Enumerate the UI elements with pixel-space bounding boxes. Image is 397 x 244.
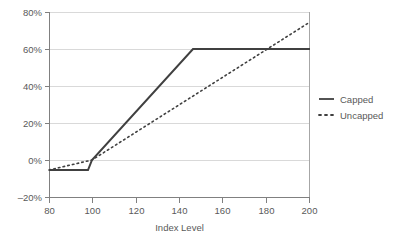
y-tick-label-20: 20% xyxy=(0,118,42,129)
x-axis-title: Index Level xyxy=(49,222,310,233)
chart-legend: Capped Uncapped xyxy=(318,92,394,124)
x-tick-label-180: 180 xyxy=(246,205,287,216)
x-tick-label-120: 120 xyxy=(116,205,157,216)
y-tick-label-0: 0% xyxy=(0,155,42,166)
x-axis-ticks xyxy=(50,198,310,203)
y-tick-label-minus20: –20% xyxy=(0,192,42,203)
x-tick-label-80: 80 xyxy=(29,205,70,216)
y-tick-label-60: 60% xyxy=(0,44,42,55)
x-tick-label-160: 160 xyxy=(202,205,243,216)
x-tick-label-100: 100 xyxy=(72,205,113,216)
y-tick-label-40: 40% xyxy=(0,81,42,92)
y-tick-label-80: 80% xyxy=(0,7,42,18)
x-tick-label-140: 140 xyxy=(159,205,200,216)
legend-dotted-line-icon xyxy=(318,110,335,120)
legend-label-capped: Capped xyxy=(340,94,373,105)
legend-item-capped: Capped xyxy=(318,92,394,106)
legend-item-uncapped: Uncapped xyxy=(318,108,394,122)
legend-label-uncapped: Uncapped xyxy=(340,110,383,121)
legend-solid-line-icon xyxy=(318,94,335,104)
x-tick-label-200: 200 xyxy=(289,205,330,216)
chart-container: 80% 60% 40% 20% 0% –20% 80 100 120 140 1… xyxy=(0,0,397,244)
